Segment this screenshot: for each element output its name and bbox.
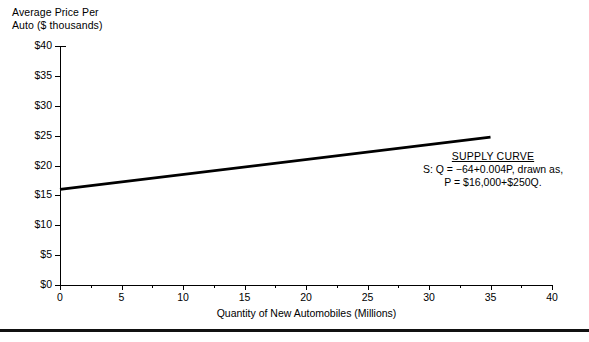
x-axis-minor-tick <box>152 285 153 288</box>
y-axis-tick <box>55 166 60 167</box>
y-axis-tick <box>55 46 60 47</box>
x-axis-tick <box>306 285 307 290</box>
x-axis-tick <box>368 285 369 290</box>
y-axis-tick-label: $40 <box>0 40 52 50</box>
x-axis-tick <box>429 285 430 290</box>
x-axis-tick <box>245 285 246 290</box>
x-axis-title: Quantity of New Automobiles (Millions) <box>60 307 553 319</box>
x-axis-minor-tick <box>214 285 215 288</box>
x-axis-minor-tick <box>460 285 461 288</box>
y-axis-title: Average Price Per Auto ($ thousands) <box>12 6 103 32</box>
x-axis-tick-label: 35 <box>471 292 511 303</box>
y-axis-tick <box>55 225 60 226</box>
y-axis-top-cap <box>60 46 66 47</box>
x-axis-tick-label: 10 <box>163 292 203 303</box>
x-axis-minor-tick <box>521 285 522 288</box>
supply-curve-annotation-title: SUPPLY CURVE <box>400 150 586 163</box>
y-axis-tick-label: $25 <box>0 130 52 140</box>
y-axis-tick <box>55 136 60 137</box>
x-axis-minor-tick <box>337 285 338 288</box>
y-axis-tick-label: $0 <box>0 279 52 289</box>
supply-curve-equation-price: P = $16,000+$250Q. <box>400 176 586 189</box>
x-axis-tick <box>491 285 492 290</box>
x-axis-tick-label: 0 <box>40 292 80 303</box>
x-axis-tick-label: 15 <box>225 292 265 303</box>
x-axis-tick-label: 20 <box>286 292 326 303</box>
y-axis-tick-label: $30 <box>0 100 52 110</box>
x-axis-tick-label: 40 <box>532 292 572 303</box>
y-axis-line <box>60 46 61 286</box>
x-axis-tick-label: 30 <box>409 292 449 303</box>
supply-curve-chart: Average Price Per Auto ($ thousands) $0$… <box>0 0 589 342</box>
x-axis-minor-tick <box>398 285 399 288</box>
y-axis-tick <box>55 255 60 256</box>
x-axis-tick <box>122 285 123 290</box>
y-axis-tick-label: $5 <box>0 249 52 259</box>
x-axis-minor-tick <box>275 285 276 288</box>
y-axis-tick-label: $10 <box>0 219 52 229</box>
x-axis-tick-label: 25 <box>348 292 388 303</box>
supply-curve-annotation: SUPPLY CURVE S: Q = −64+0.004P, drawn as… <box>400 150 586 189</box>
x-axis-tick-label: 5 <box>102 292 142 303</box>
supply-curve-equation-quantity: S: Q = −64+0.004P, drawn as, <box>400 163 586 176</box>
y-axis-tick-label: $20 <box>0 160 52 170</box>
bottom-divider-rule <box>0 329 589 332</box>
y-axis-tick-label: $15 <box>0 189 52 199</box>
x-axis-tick <box>60 285 61 290</box>
y-axis-tick <box>55 76 60 77</box>
x-axis-minor-tick <box>91 285 92 288</box>
y-axis-tick <box>55 195 60 196</box>
y-axis-tick <box>55 106 60 107</box>
y-axis-tick-label: $35 <box>0 70 52 80</box>
x-axis-tick <box>552 285 553 290</box>
x-axis-tick <box>183 285 184 290</box>
